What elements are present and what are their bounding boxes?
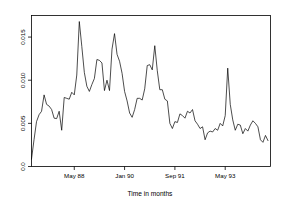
y-axis-tick-label: 0.005	[19, 115, 26, 131]
line-chart: 0.00.0050.0100.015 May 88Jan 90Sep 91May…	[0, 0, 281, 209]
y-axis-tick-label: 0.015	[19, 29, 26, 45]
x-axis-tick-label: Jan 90	[115, 172, 134, 179]
chart-figure: 0.00.0050.0100.015 May 88Jan 90Sep 91May…	[0, 0, 281, 209]
y-axis-tick-label: 0.0	[19, 162, 26, 171]
x-axis-tick-label: Sep 91	[165, 172, 185, 179]
x-axis-tick-label: May 93	[215, 172, 236, 179]
x-axis-title: Time in months	[128, 190, 174, 197]
plot-background	[0, 0, 281, 209]
x-axis-tick-label: May 88	[64, 172, 85, 179]
y-axis-tick-label: 0.010	[19, 72, 26, 88]
